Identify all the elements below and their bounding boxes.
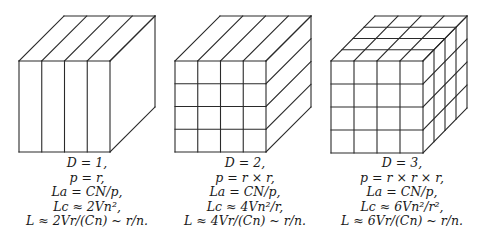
caption-line-dimension: D = 2, [165,156,325,171]
caption-line-dimension: D = 1, [7,156,167,171]
domain-decomposition-figure: D = 1, p = r, La = CN/p, Lc ≈ 2Vn², L ≈ … [0,0,488,241]
caption-line-L: L ≈ 4Vr/(Cn) ~ r/n. [165,214,325,229]
caption-line-L: L ≈ 2Vr/(Cn) ~ r/n. [7,214,167,229]
caption-line-Lc: Lc ≈ 6Vn²/r², [322,200,482,215]
cube-d3 [331,16,467,153]
caption-line-processors: p = r, [7,171,167,186]
caption-line-processors: p = r × r, [165,171,325,186]
caption-line-La: La = CN/p, [7,185,167,200]
caption-line-L: L ≈ 6Vr/(Cn) ~ r/n. [322,214,482,229]
caption-line-processors: p = r × r × r, [322,171,482,186]
caption-line-Lc: Lc ≈ 4Vn²/r, [165,200,325,215]
caption-d3: D = 3, p = r × r × r, La = CN/p, Lc ≈ 6V… [322,156,482,229]
cube-d2 [175,16,311,152]
cube-d1 [19,16,155,152]
caption-line-La: La = CN/p, [322,185,482,200]
caption-d1: D = 1, p = r, La = CN/p, Lc ≈ 2Vn², L ≈ … [7,156,167,229]
caption-line-La: La = CN/p, [165,185,325,200]
caption-d2: D = 2, p = r × r, La = CN/p, Lc ≈ 4Vn²/r… [165,156,325,229]
caption-line-Lc: Lc ≈ 2Vn², [7,200,167,215]
caption-line-dimension: D = 3, [322,156,482,171]
